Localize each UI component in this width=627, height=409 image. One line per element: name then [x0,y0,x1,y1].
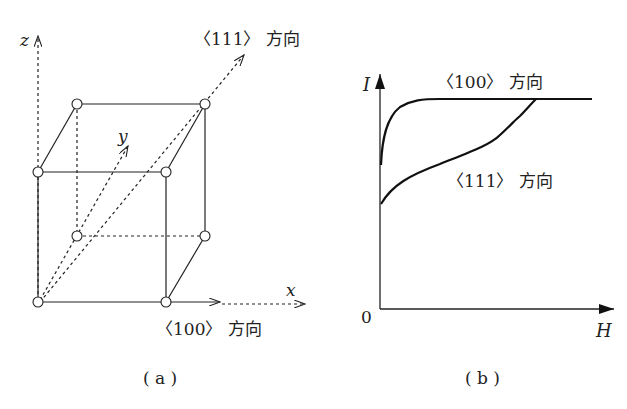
vertex [161,167,171,177]
panel-a-caption: ( a ) [143,368,177,388]
direction-100-label: 〈100〉 方向 [156,319,262,339]
figure: z y x 〈111〉 方向 〈100〉 方向 ( a ) I H 0 〈100… [0,0,627,409]
y-axis [40,146,128,300]
cube-bottom-right-edge [166,236,205,302]
y-axis-label-I: I [362,74,371,95]
vertex [200,99,210,109]
origin-label: 0 [361,307,372,327]
panel-b-caption: ( b ) [465,368,500,388]
vertex [200,231,210,241]
vertex [33,167,43,177]
x-axis-label-H: H [595,320,612,341]
vertex [72,99,82,109]
curve-111-label: 〈111〉 方向 [447,171,553,191]
curve-100 [381,99,592,165]
cube-top-left-edge [38,104,77,172]
panel-a-cube-diagram [33,36,305,307]
z-axis-label: z [19,30,30,50]
vertex [72,231,82,241]
y-axis-label: y [117,126,128,146]
direction-111-axis [40,55,244,302]
vertex [33,297,43,307]
cube-top-right-edge [166,104,205,172]
curve-100-label: 〈100〉 方向 [437,72,543,92]
vertex [161,297,171,307]
x-axis-label: x [286,280,296,300]
panel-b-magnetization-chart [380,74,614,309]
cube-front-face [38,172,166,302]
direction-111-label: 〈111〉 方向 [194,29,300,49]
